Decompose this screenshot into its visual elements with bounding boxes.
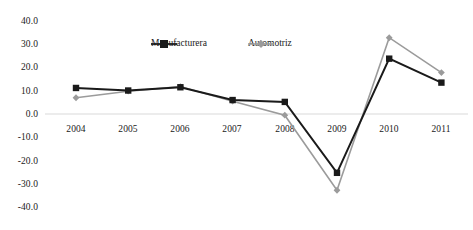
data-point-manufacturera: [177, 84, 183, 90]
data-point-manufacturera: [438, 79, 444, 85]
data-point-automotriz: [73, 94, 80, 101]
data-point-manufacturera: [386, 55, 392, 61]
line-chart: 40.0 30.0 20.0 10.0 0.0 -10.0 -20.0 -30.…: [0, 0, 473, 230]
data-point-manufacturera: [229, 97, 235, 103]
data-point-manufacturera: [73, 85, 79, 91]
data-point-manufacturera: [282, 99, 288, 105]
series-line-manufacturera: [76, 59, 441, 173]
data-point-manufacturera: [334, 170, 340, 176]
series-markers-manufacturera: [73, 55, 445, 176]
data-point-manufacturera: [125, 87, 131, 93]
plot-area: [0, 0, 473, 230]
